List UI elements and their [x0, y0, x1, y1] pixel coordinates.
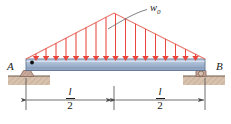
support-label-b: B [216, 61, 223, 72]
dimension-right-numerator: l [151, 86, 169, 98]
dimension-lines [26, 78, 205, 110]
load-intensity-subscript: 0 [157, 8, 161, 16]
load-intensity-symbol: w [150, 2, 157, 13]
roller-support-b [196, 71, 206, 77]
ground-right [183, 76, 225, 85]
beam-load-diagram: A B w0 l 2 l 2 [0, 0, 231, 124]
ground-left [8, 76, 50, 85]
pin-support-a [20, 71, 34, 77]
dimension-left-denominator: 2 [61, 99, 79, 111]
load-intensity-label: w0 [150, 3, 161, 16]
pin-node-dot [30, 61, 34, 65]
dimension-right-label: l 2 [151, 86, 169, 111]
dimension-left-label: l 2 [61, 86, 79, 111]
support-label-a: A [7, 61, 14, 72]
dimension-left-numerator: l [61, 86, 79, 98]
dimension-right-denominator: 2 [151, 99, 169, 111]
beam [26, 59, 205, 71]
load-arrows [36, 14, 196, 58]
diagram-canvas [0, 0, 231, 124]
